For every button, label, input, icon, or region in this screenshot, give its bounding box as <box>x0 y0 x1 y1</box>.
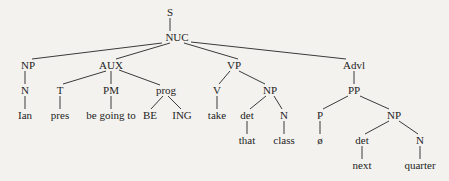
tree-branch <box>63 71 106 84</box>
tree-branch <box>219 71 230 84</box>
tree-node-that: that <box>239 134 256 146</box>
tree-node-begoing: be going to <box>86 109 136 121</box>
tree-branch <box>360 96 389 109</box>
tree-branch <box>250 96 266 109</box>
tree-node-p: P <box>317 109 323 121</box>
tree-node-vp: VP <box>227 59 241 71</box>
tree-node-t: T <box>57 84 64 96</box>
tree-node-n1: N <box>21 84 29 96</box>
tree-branch <box>168 96 181 109</box>
tree-node-n3: N <box>416 134 424 146</box>
tree-branch <box>119 70 160 85</box>
tree-node-next: next <box>353 159 372 171</box>
tree-node-pp: PP <box>348 84 360 96</box>
tree-node-ian: Ian <box>18 109 32 121</box>
tree-node-det1: det <box>240 109 253 121</box>
tree-node-s: S <box>167 6 173 18</box>
tree-node-np2: NP <box>263 84 277 96</box>
tree-node-be: BE <box>143 109 157 121</box>
tree-node-take: take <box>208 109 226 121</box>
tree-node-advl: Advl <box>343 59 365 71</box>
tree-node-pres: pres <box>51 109 69 121</box>
tree-node-quarter: quarter <box>404 159 435 171</box>
tree-node-det2: det <box>355 134 368 146</box>
tree-branch <box>323 96 348 109</box>
tree-node-class: class <box>273 134 294 146</box>
tree-node-np3: NP <box>387 109 401 121</box>
tree-node-nuc: NUC <box>165 31 188 43</box>
tree-node-null: ø <box>317 134 323 146</box>
tree-node-prog: prog <box>156 84 176 96</box>
tree-node-pm: PM <box>103 84 119 96</box>
tree-branch <box>365 121 389 134</box>
tree-branch <box>184 43 238 59</box>
tree-branch <box>239 71 265 84</box>
tree-edges <box>0 0 449 181</box>
tree-branch <box>151 96 163 109</box>
tree-node-ing: ING <box>172 109 192 121</box>
tree-node-np1: NP <box>21 59 35 71</box>
tree-branch <box>191 42 346 59</box>
tree-branch <box>399 121 418 134</box>
tree-node-v: V <box>213 84 221 96</box>
tree-branch <box>274 96 282 109</box>
tree-node-n2: N <box>280 109 288 121</box>
tree-node-aux: AUX <box>99 59 123 71</box>
